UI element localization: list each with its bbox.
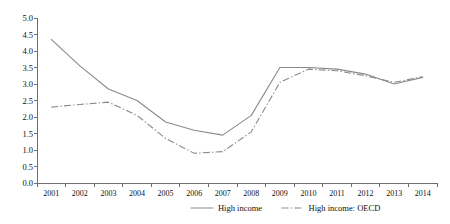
legend-item-label: High income [218,203,262,213]
y-tick-label: 2.5 [22,96,33,106]
x-tick-label: 2011 [329,189,345,198]
y-tick-label: 1.5 [22,129,33,139]
y-tick-label: 4.5 [22,30,33,40]
series-line-high-income [51,39,422,135]
y-axis-tick-labels: 0.00.51.01.52.02.53.03.54.04.55.0 [22,13,33,188]
y-tick-label: 0.5 [22,162,33,172]
y-tick-label: 3.5 [22,63,33,73]
x-axis-tick-marks [37,183,437,187]
y-tick-label: 1.0 [22,145,33,155]
x-tick-label: 2003 [100,189,116,198]
x-tick-label: 2008 [243,189,259,198]
chart-canvas: 0.00.51.01.52.02.53.03.54.04.55.0 200120… [0,0,450,224]
legend-item-label: High income: OECD [309,203,381,213]
chart-legend: High incomeHigh income: OECD [191,203,380,213]
x-tick-label: 2012 [358,189,374,198]
x-tick-label: 2013 [386,189,402,198]
x-axis-tick-labels: 2001200220032004200520062007200820092010… [43,189,430,198]
x-tick-label: 2001 [43,189,59,198]
x-tick-label: 2005 [158,189,174,198]
y-tick-label: 0.0 [22,178,33,188]
x-tick-label: 2004 [129,189,145,198]
x-tick-label: 2007 [215,189,231,198]
y-axis-tick-marks [34,18,38,183]
series-line-high-income-oecd [51,69,422,153]
y-tick-label: 3.0 [22,79,33,89]
y-tick-label: 4.0 [22,46,33,56]
x-tick-label: 2014 [415,189,431,198]
line-chart: 0.00.51.01.52.02.53.03.54.04.55.0 200120… [0,0,450,224]
x-tick-label: 2002 [72,189,88,198]
x-tick-label: 2006 [186,189,202,198]
x-tick-label: 2009 [272,189,288,198]
x-tick-label: 2010 [300,189,316,198]
y-tick-label: 2.0 [22,112,33,122]
y-tick-label: 5.0 [22,13,33,23]
